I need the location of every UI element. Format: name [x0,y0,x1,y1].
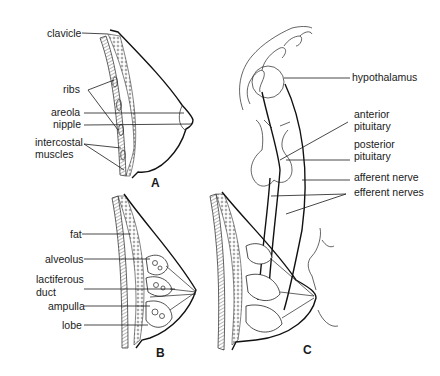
label-posterior: posterior [354,138,395,150]
panel-label-b: B [156,346,165,360]
label-areola: areola [51,106,80,118]
lobe [146,301,172,327]
lobe [146,255,168,275]
panel-a-sagittal-breast: clavicle ribs areola nipple intercostal … [35,27,193,190]
label-posterior-pituitary: pituitary [354,150,392,162]
label-hypothalamus: hypothalamus [352,71,417,83]
label-lobe: lobe [62,319,82,331]
label-nipple: nipple [53,118,81,130]
label-clavicle: clavicle [47,27,82,39]
label-duct: duct [36,286,56,298]
label-anterior: anterior [354,108,390,120]
lobe [146,277,172,297]
label-alveolus: alveolus [45,253,84,265]
panel-label-a: A [151,176,160,190]
label-muscles: muscles [35,148,74,160]
label-afferent-nerve: afferent nerve [354,171,419,183]
label-efferent-nerves: efferent nerves [354,186,424,198]
panel-b-lactating-breast: fat alveolus lactiferous duct ampulla lo… [36,194,196,360]
label-ribs: ribs [63,83,80,95]
label-fat: fat [70,228,82,240]
label-anterior-pituitary: pituitary [354,120,392,132]
afferent-nerve [284,84,305,310]
label-intercostal: intercostal [35,136,83,148]
label-lactiferous: lactiferous [36,273,84,285]
label-ampulla: ampulla [48,300,85,312]
areola-arc [179,106,185,130]
panel-label-c: C [303,343,312,357]
hypothalamus-circle [252,66,284,98]
panel-c-neuroendocrine-reflex: hypothalamus anterior pituitary posterio… [210,27,424,358]
infant-face-outline [308,228,338,326]
breast-anatomy-diagram: clavicle ribs areola nipple intercostal … [0,0,440,376]
